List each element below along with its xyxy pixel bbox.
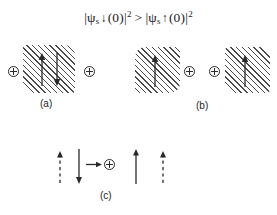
panel-c-arrow-up-dashed-right — [158, 151, 168, 183]
panel-b-charge-right — [184, 66, 195, 77]
formula-right-psi: ψ — [148, 10, 157, 25]
formula-left-psi: ψ — [87, 10, 96, 25]
formula-left-exponent: 2 — [127, 9, 132, 19]
panel-a-arrow-down — [52, 53, 62, 86]
formula-caption: |ψs↓(0)|2>|ψs↑(0)|2 — [0, 9, 277, 26]
panel-c-charge — [104, 159, 115, 170]
panel-a-charge-left — [8, 66, 19, 77]
panel-b-arrow-up-left — [150, 55, 160, 87]
formula-right-spin-arrow: ↑ — [161, 11, 169, 25]
formula-right-exponent: 2 — [188, 9, 193, 19]
panel-b-arrow-up-right — [240, 55, 250, 87]
formula-relation-operator: > — [132, 10, 146, 25]
panel-c-arrow-up-solid — [131, 149, 141, 184]
panel-a-charge-right — [84, 66, 95, 77]
formula-right-argument: (0) — [169, 10, 185, 25]
figure-canvas: |ψs↓(0)|2>|ψs↑(0)|2 (a) (b) — [0, 0, 277, 215]
panel-c-label: (c) — [100, 190, 112, 201]
formula-left-argument: (0) — [108, 10, 124, 25]
formula-left-spin-arrow: ↓ — [99, 11, 107, 25]
panel-c-arrow-up-dashed-left — [55, 151, 65, 183]
panel-a-arrow-up — [37, 53, 47, 86]
panel-c-arrow-down-solid — [74, 149, 84, 184]
panel-c-arrow-right-solid — [86, 160, 102, 169]
panel-b-charge-left — [209, 66, 220, 77]
panel-a-label: (a) — [40, 98, 52, 109]
panel-b-label: (b) — [196, 100, 208, 111]
panel-a-hatched-region — [23, 45, 75, 93]
